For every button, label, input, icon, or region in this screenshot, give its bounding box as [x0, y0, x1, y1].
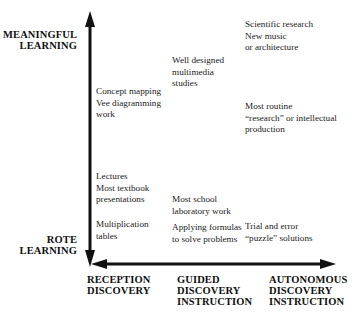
item-concept-mapping: Concept mapping Vee diagramming work [96, 86, 161, 121]
item-line: Scientific research [245, 19, 313, 31]
label-line: DISCOVERY [87, 285, 151, 296]
label-line: INSTRUCTION [177, 296, 252, 307]
item-line: laboratory work [172, 206, 231, 218]
y-axis-top-label: MEANINGFUL LEARNING [2, 29, 77, 51]
x-axis-label-guided: GUIDED DISCOVERY INSTRUCTION [177, 274, 252, 307]
label-line: GUIDED [177, 274, 252, 285]
item-multiplication-tables: Multiplication tables [96, 219, 149, 242]
label-line: LEARNING [2, 245, 77, 256]
item-line: Concept mapping [96, 86, 161, 98]
item-line: “puzzle” solutions [245, 233, 313, 245]
label-line: INSTRUCTION [269, 296, 347, 307]
label-line: DISCOVERY [269, 285, 347, 296]
item-line: multimedia [172, 67, 224, 79]
label-line: LEARNING [2, 40, 77, 51]
item-line: New music [245, 31, 313, 43]
x-axis-label-reception: RECEPTION DISCOVERY [87, 274, 151, 296]
item-line: Most school [172, 194, 231, 206]
item-line: to solve problems [172, 234, 242, 246]
label-line: ROTE [2, 234, 77, 245]
item-line: “research” or intellectual [245, 113, 337, 125]
label-line: DISCOVERY [177, 285, 252, 296]
item-line: production [245, 124, 337, 136]
item-line: work [96, 109, 161, 121]
item-line: studies [172, 78, 224, 90]
item-applying-formulas: Applying formulas to solve problems [172, 222, 242, 245]
item-line: Most routine [245, 101, 337, 113]
item-line: Vee diagramming [96, 98, 161, 110]
item-lectures: Lectures Most textbook presentations [96, 171, 149, 206]
arrow-left-icon [91, 259, 107, 269]
label-line: MEANINGFUL [2, 29, 77, 40]
item-multimedia-studies: Well designed multimedia studies [172, 55, 224, 90]
item-trial-and-error: Trial and error “puzzle” solutions [245, 221, 313, 244]
item-routine-research: Most routine “research” or intellectual … [245, 101, 337, 136]
item-line: Well designed [172, 55, 224, 67]
item-line: Applying formulas [172, 222, 242, 234]
label-line: AUTONOMOUS [269, 274, 347, 285]
item-line: Most textbook [96, 183, 149, 195]
arrow-up-icon [85, 11, 95, 27]
item-scientific-research: Scientific research New music or archite… [245, 19, 313, 54]
arrow-right-icon [320, 259, 336, 269]
item-line: presentations [96, 194, 149, 206]
item-lab-work: Most school laboratory work [172, 194, 231, 217]
label-line: RECEPTION [87, 274, 151, 285]
vertical-axis [85, 11, 95, 267]
item-line: Multiplication [96, 219, 149, 231]
learning-continuum-diagram: MEANINGFUL LEARNING ROTE LEARNING RECEPT… [0, 0, 355, 316]
x-axis-label-autonomous: AUTONOMOUS DISCOVERY INSTRUCTION [269, 274, 347, 307]
y-axis-bottom-label: ROTE LEARNING [2, 234, 77, 256]
item-line: tables [96, 231, 149, 243]
item-line: Lectures [96, 171, 149, 183]
horizontal-axis [91, 259, 336, 269]
item-line: or architecture [245, 42, 313, 54]
item-line: Trial and error [245, 221, 313, 233]
